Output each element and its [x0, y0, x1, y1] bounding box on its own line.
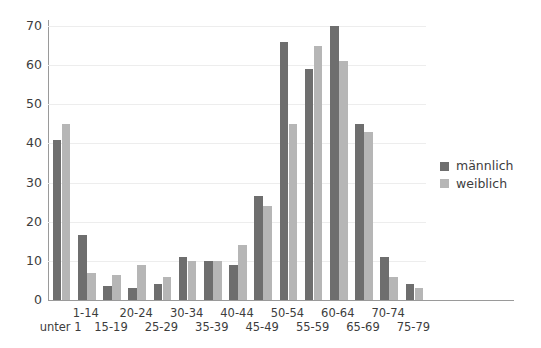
bar-maennlich [380, 257, 389, 300]
y-tick-label: 20 [14, 216, 42, 229]
bar-group [78, 26, 96, 300]
bar-chart: 010203040506070 unter 11-1415-1920-2425-… [0, 0, 541, 348]
bar-weiblich [263, 206, 272, 300]
bar-group [204, 26, 222, 300]
legend-item: männlich [440, 160, 513, 173]
chart-legend: männlichweiblich [440, 160, 513, 195]
bar-group [330, 26, 348, 300]
bar-maennlich [128, 288, 137, 300]
bar-group [305, 26, 323, 300]
legend-swatch-icon [440, 179, 449, 188]
bar-weiblich [112, 275, 121, 300]
y-tick-label: 0 [14, 294, 42, 307]
bar-weiblich [289, 124, 298, 300]
legend-label: weiblich [456, 178, 507, 191]
bar-weiblich [339, 61, 348, 300]
y-tick-label: 30 [14, 177, 42, 190]
bar-group [280, 26, 298, 300]
bar-weiblich [62, 124, 71, 300]
y-tick-label: 70 [14, 20, 42, 33]
bar-maennlich [229, 265, 238, 300]
x-tick-label: 70-74 [358, 308, 418, 320]
bar-maennlich [355, 124, 364, 300]
bar-maennlich [330, 26, 339, 300]
legend-swatch-icon [440, 162, 449, 171]
bar-weiblich [415, 288, 424, 300]
bar-weiblich [163, 277, 172, 300]
bar-maennlich [53, 140, 62, 300]
bar-weiblich [213, 261, 222, 300]
bar-maennlich [305, 69, 314, 300]
bar-group [254, 26, 272, 300]
bar-weiblich [188, 261, 197, 300]
bar-group [355, 26, 373, 300]
bar-weiblich [87, 273, 96, 300]
bar-weiblich [389, 277, 398, 300]
plot-area [48, 26, 426, 300]
bar-weiblich [314, 46, 323, 300]
bar-weiblich [238, 245, 247, 300]
bar-maennlich [204, 261, 213, 300]
bar-group [406, 26, 424, 300]
bar-group [154, 26, 172, 300]
y-tick-label: 60 [14, 59, 42, 72]
y-tick-label: 10 [14, 255, 42, 268]
bar-group [53, 26, 71, 300]
bar-weiblich [364, 132, 373, 300]
bar-maennlich [103, 286, 112, 300]
bar-group [128, 26, 146, 300]
y-tick-label: 50 [14, 98, 42, 111]
bar-weiblich [137, 265, 146, 300]
x-axis-line [48, 300, 514, 301]
bar-maennlich [78, 235, 87, 300]
bar-maennlich [154, 284, 163, 300]
x-tick-label: 75-79 [383, 322, 443, 334]
bar-maennlich [280, 42, 289, 300]
bar-group [229, 26, 247, 300]
bar-maennlich [179, 257, 188, 300]
bar-group [380, 26, 398, 300]
bar-group [103, 26, 121, 300]
bar-maennlich [406, 284, 415, 300]
legend-item: weiblich [440, 178, 513, 191]
bar-maennlich [254, 196, 263, 300]
legend-label: männlich [456, 160, 513, 173]
bar-group [179, 26, 197, 300]
y-tick-label: 40 [14, 137, 42, 150]
